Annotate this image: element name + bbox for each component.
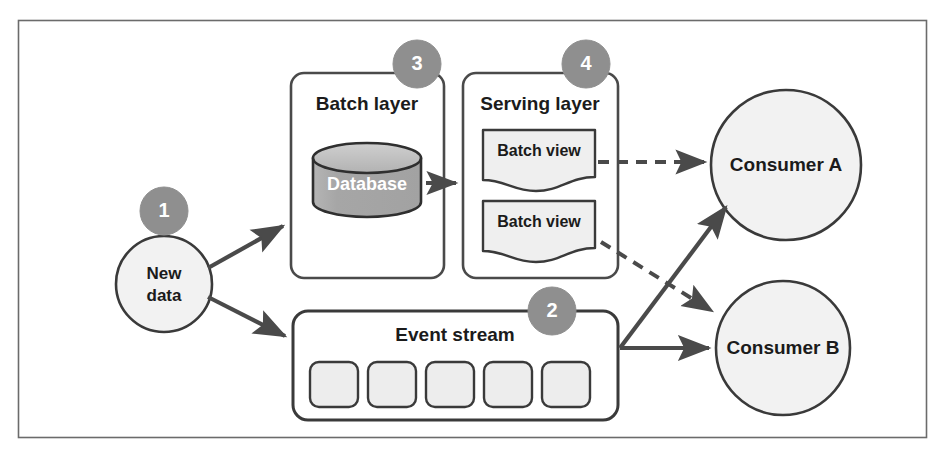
event-item[interactable] [542,362,590,407]
new-data-label-line1: New [147,264,183,283]
figure-container: Batch layer Database Serving layer Batch… [0,0,946,463]
event-item[interactable] [426,362,474,407]
event-item[interactable] [484,362,532,407]
consumer-b-label: Consumer B [727,337,840,358]
batch-view-1-label: Batch view [497,142,581,159]
badge-2[interactable]: 2 [528,287,576,335]
badge-1-label: 1 [158,199,169,221]
event-stream-items [310,362,590,407]
event-stream-title: Event stream [395,324,514,345]
consumer-b-node[interactable]: Consumer B [716,281,850,415]
badge-3-label: 3 [411,52,422,74]
event-item[interactable] [368,362,416,407]
badge-3[interactable]: 3 [393,40,441,88]
database-label: Database [327,174,407,194]
batch-view-2-label: Batch view [497,213,581,230]
consumer-a-node[interactable]: Consumer A [711,90,861,240]
new-data-label-line2: data [147,286,183,305]
new-data-node[interactable]: New data [116,236,212,332]
new-data-circle[interactable] [116,236,212,332]
badge-4-label: 4 [580,52,592,74]
serving-layer-title: Serving layer [480,93,600,114]
database-cylinder[interactable]: Database [313,143,421,217]
batch-layer-title: Batch layer [316,93,419,114]
badge-2-label: 2 [546,299,557,321]
consumer-a-label: Consumer A [730,154,843,175]
serving-layer-group[interactable]: Serving layer Batch view Batch view [463,73,618,278]
batch-layer-group[interactable]: Batch layer Database [291,73,444,278]
badge-4[interactable]: 4 [562,40,610,88]
database-top [313,143,421,173]
badge-1[interactable]: 1 [140,187,188,235]
event-item[interactable] [310,362,358,407]
